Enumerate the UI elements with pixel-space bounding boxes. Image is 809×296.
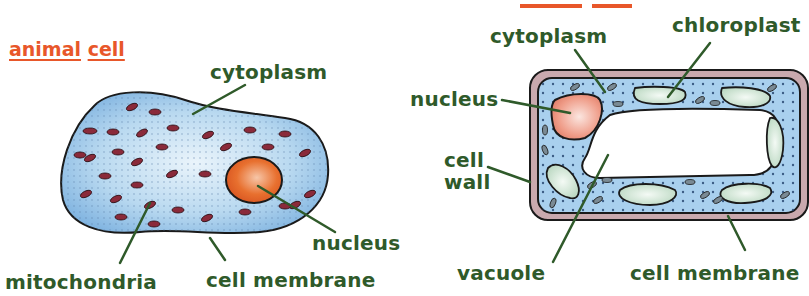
label-plant-cytoplasm: cytoplasm bbox=[490, 26, 607, 46]
label-plant-cell-wall-line1: cell bbox=[444, 150, 484, 170]
animal-cell-title: animal cell bbox=[9, 40, 125, 59]
label-plant-chloroplast: chloroplast bbox=[672, 15, 801, 35]
label-animal-cytoplasm: cytoplasm bbox=[210, 62, 327, 82]
leader-animal-membrane bbox=[210, 238, 225, 260]
animal-cell-title-word-1: animal bbox=[9, 38, 81, 60]
label-animal-nucleus: nucleus bbox=[312, 233, 400, 253]
label-animal-mitochondria: mitochondria bbox=[5, 272, 157, 292]
label-plant-cell-wall-line2: wall bbox=[444, 172, 490, 192]
leader-plant-membrane bbox=[728, 216, 745, 250]
plant-cell bbox=[488, 43, 808, 262]
leader-plant-cell-wall bbox=[488, 167, 530, 182]
label-plant-vacuole: vacuole bbox=[457, 263, 545, 283]
animal-cell-title-word-2: cell bbox=[88, 38, 125, 60]
animal-cell bbox=[61, 85, 335, 263]
label-plant-cell-membrane: cell membrane bbox=[630, 263, 799, 283]
label-plant-nucleus: nucleus bbox=[410, 89, 498, 109]
label-animal-cell-membrane: cell membrane bbox=[206, 270, 375, 290]
plant-vacuole bbox=[582, 109, 778, 178]
